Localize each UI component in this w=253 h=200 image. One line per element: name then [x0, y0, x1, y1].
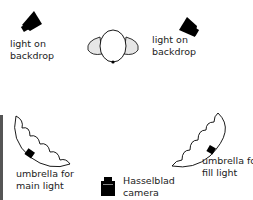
- label-line: backdrop: [152, 46, 196, 58]
- subject-head-icon: [88, 30, 139, 64]
- label-line: camera: [123, 187, 175, 199]
- label-umbrella-fill: umbrella for fill light: [202, 155, 253, 179]
- label-line: fill light: [202, 167, 253, 179]
- camera-icon: [101, 177, 115, 196]
- label-line: Hasselblad: [123, 175, 175, 187]
- label-line: light on: [152, 34, 196, 46]
- label-camera: Hasselblad camera: [123, 175, 175, 199]
- label-umbrella-main: umbrella for main light: [16, 168, 74, 192]
- label-line: main light: [16, 180, 74, 192]
- label-line: backdrop: [10, 50, 54, 62]
- label-line: light on: [10, 38, 54, 50]
- umbrella-main-icon: [15, 116, 70, 167]
- spotlight-left-icon: [21, 11, 42, 32]
- label-light-left: light on backdrop: [10, 38, 54, 62]
- label-line: umbrella for: [16, 168, 74, 180]
- label-line: umbrella for: [202, 155, 253, 167]
- label-light-right: light on backdrop: [152, 34, 196, 58]
